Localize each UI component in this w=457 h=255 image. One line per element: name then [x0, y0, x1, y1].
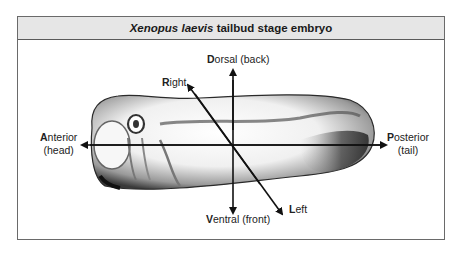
label-dorsal: Dorsal (back) — [207, 53, 269, 66]
label-left: Left — [289, 203, 307, 216]
label-anterior: Anterior(head) — [40, 131, 77, 157]
label-ventral: Ventral (front) — [206, 213, 270, 226]
label-right: Right — [162, 76, 187, 89]
label-posterior: Posterior(tail) — [387, 131, 429, 157]
